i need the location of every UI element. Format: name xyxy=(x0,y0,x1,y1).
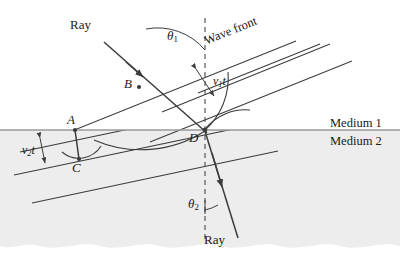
label-point-c: C xyxy=(72,160,81,176)
wavefront-m1-inner xyxy=(62,41,296,135)
label-ray-refracted: Ray xyxy=(204,232,225,248)
point-a-dot xyxy=(73,128,77,132)
label-theta-1: θ1 xyxy=(167,28,178,44)
v1t-time: t xyxy=(222,74,225,88)
wavefront-m1-middle xyxy=(162,44,330,112)
label-theta-2: θ2 xyxy=(188,196,199,212)
wavelet-arc-at-d-right xyxy=(205,110,250,129)
point-b-dot xyxy=(137,85,141,89)
theta-2-subscript: 2 xyxy=(194,202,198,212)
incident-ray-line xyxy=(104,42,207,133)
incident-ray-arrow xyxy=(126,62,143,77)
diagram-canvas xyxy=(0,0,400,266)
theta-1-subscript: 1 xyxy=(173,34,177,44)
refraction-wavefront-figure: Ray Ray Wave front Medium 1 Medium 2 θ1 … xyxy=(0,0,400,266)
v2t-time: t xyxy=(31,143,34,157)
label-point-b: B xyxy=(124,76,132,92)
label-medium-1: Medium 1 xyxy=(330,116,382,131)
label-v2t: v2t xyxy=(22,143,35,158)
label-medium-2: Medium 2 xyxy=(330,134,382,149)
point-d-dot xyxy=(203,128,208,133)
label-v1t: v1t xyxy=(213,74,226,89)
label-ray-incident: Ray xyxy=(70,17,91,33)
wavefronts-medium-1 xyxy=(62,41,330,135)
label-point-a: A xyxy=(67,112,75,128)
label-point-d: D xyxy=(189,130,198,146)
